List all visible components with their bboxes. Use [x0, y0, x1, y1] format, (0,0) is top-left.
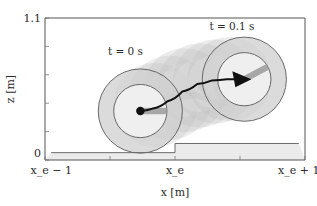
y-tick-label-0: 0: [34, 147, 41, 160]
wheel-center-dot: [136, 107, 144, 115]
y-axis-title: z [m]: [4, 75, 17, 103]
x-tick-label-1: x_e: [166, 164, 184, 177]
y-tick-label-1: 1.1: [24, 12, 42, 25]
annotation-1: t = 0.1 s: [209, 20, 254, 32]
x-axis-title: x [m]: [161, 186, 190, 199]
plot-canvas: 01.1z [m]x_e − 1x_ex_e + 1x [m]t = 0 st …: [0, 0, 317, 206]
x-tick-label-2: x_e + 1: [278, 164, 317, 177]
figure-panel: 01.1z [m]x_e − 1x_ex_e + 1x [m]t = 0 st …: [0, 0, 317, 206]
annotation-0: t = 0 s: [108, 45, 143, 57]
x-tick-label-0: x_e − 1: [30, 164, 71, 177]
